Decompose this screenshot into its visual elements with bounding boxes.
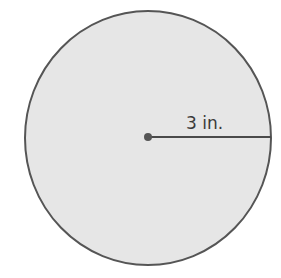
circle-diagram: 3 in. [0, 0, 281, 278]
radius-label: 3 in. [186, 113, 223, 133]
center-point [144, 133, 152, 141]
